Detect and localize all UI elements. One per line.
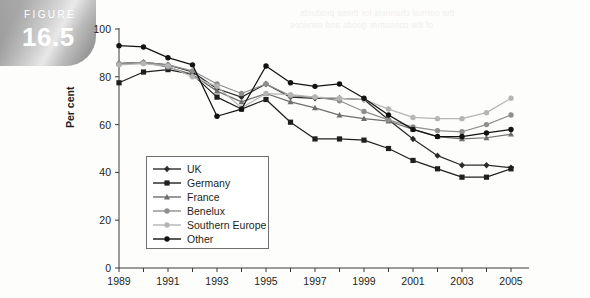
data-point — [410, 158, 415, 163]
data-point — [288, 120, 293, 125]
line-chart: 0204060801001989199119931995199719992001… — [0, 0, 590, 298]
data-point — [214, 95, 219, 100]
data-point — [386, 112, 391, 117]
data-point — [484, 175, 489, 180]
legend-marker-icon — [152, 219, 182, 231]
data-point — [508, 112, 513, 117]
y-axis-tick-label: 0 — [105, 262, 111, 274]
y-axis-tick-label: 100 — [93, 23, 111, 35]
data-point — [435, 116, 440, 121]
legend-item-label: Germany — [187, 177, 230, 189]
data-point — [165, 55, 170, 60]
legend-marker — [164, 180, 169, 185]
data-point — [141, 61, 146, 66]
x-axis-tick-label: 1997 — [303, 275, 327, 287]
series-line — [119, 46, 511, 137]
data-point — [239, 106, 244, 111]
legend-item-label: France — [187, 191, 220, 203]
data-point — [312, 94, 317, 99]
legend-item-label: UK — [187, 163, 202, 175]
data-point — [484, 130, 489, 135]
data-point — [484, 162, 490, 168]
legend-marker — [164, 166, 170, 172]
x-axis-tick-label: 2003 — [450, 275, 474, 287]
legend-item-other[interactable]: Other — [152, 232, 213, 246]
x-axis-tick-label: 1993 — [205, 275, 229, 287]
data-point — [435, 152, 441, 158]
data-point — [190, 62, 195, 67]
y-axis-tick-label: 20 — [99, 214, 111, 226]
x-axis-tick-label: 1995 — [254, 275, 278, 287]
series-line — [119, 62, 511, 167]
legend-marker — [164, 222, 169, 227]
data-point — [116, 62, 121, 67]
data-point — [386, 117, 391, 122]
data-point — [141, 69, 146, 74]
x-axis-tick-label: 2005 — [499, 275, 523, 287]
data-point — [386, 106, 391, 111]
data-point — [361, 96, 366, 101]
data-point — [484, 122, 489, 127]
data-point — [239, 91, 244, 96]
legend-item-label: Benelux — [187, 205, 225, 217]
data-point — [386, 146, 391, 151]
data-point — [435, 134, 440, 139]
data-point — [165, 63, 170, 68]
x-axis-tick-label: 1999 — [352, 275, 376, 287]
legend-marker — [164, 208, 169, 213]
data-point — [361, 109, 366, 114]
data-point — [337, 96, 342, 101]
figure-number-label: 16.5 — [22, 22, 75, 53]
y-axis-title: Per cent — [64, 87, 76, 128]
data-point — [116, 43, 121, 48]
data-point — [459, 175, 464, 180]
data-point — [337, 136, 342, 141]
legend-marker-icon — [152, 233, 182, 245]
legend-item-label: Southern Europe — [187, 219, 266, 231]
data-point — [141, 44, 146, 49]
data-point — [312, 84, 317, 89]
legend-item-southern-europe[interactable]: Southern Europe — [152, 218, 266, 232]
x-axis-tick-label: 1991 — [156, 275, 180, 287]
data-point — [190, 74, 195, 79]
figure-container: the normal channels for these products o… — [0, 0, 590, 298]
chart-plot-area: 0204060801001989199119931995199719992001… — [0, 0, 590, 298]
data-point — [508, 96, 513, 101]
legend-item-france[interactable]: France — [152, 190, 220, 204]
data-point — [263, 81, 268, 86]
data-point — [410, 115, 415, 120]
legend-item-label: Other — [187, 233, 213, 245]
legend-marker-icon — [152, 191, 182, 203]
data-point — [288, 92, 293, 97]
data-point — [484, 110, 489, 115]
data-point — [508, 127, 513, 132]
legend-item-germany[interactable]: Germany — [152, 176, 230, 190]
x-axis-tick-label: 1989 — [107, 275, 131, 287]
series-other — [116, 43, 513, 139]
series-southern-europe — [116, 61, 513, 121]
legend-marker — [164, 236, 169, 241]
y-axis-tick-label: 80 — [99, 71, 111, 83]
data-point — [337, 81, 342, 86]
data-point — [263, 91, 268, 96]
legend-marker-icon — [152, 163, 182, 175]
data-point — [459, 134, 464, 139]
data-point — [361, 138, 366, 143]
y-axis-tick-label: 60 — [99, 119, 111, 131]
data-point — [459, 129, 464, 134]
x-axis-tick-label: 2001 — [401, 275, 425, 287]
y-axis-tick-label: 40 — [99, 166, 111, 178]
data-point — [263, 97, 268, 102]
data-point — [116, 80, 121, 85]
legend-item-benelux[interactable]: Benelux — [152, 204, 225, 218]
legend-marker-icon — [152, 205, 182, 217]
legend-item-uk[interactable]: UK — [152, 162, 202, 176]
data-point — [459, 162, 465, 168]
data-point — [435, 166, 440, 171]
data-point — [288, 80, 293, 85]
chart-legend: UKGermanyFranceBeneluxSouthern EuropeOth… — [146, 156, 269, 249]
data-point — [214, 114, 219, 119]
data-point — [263, 63, 268, 68]
series-uk — [116, 59, 514, 171]
data-point — [312, 136, 317, 141]
